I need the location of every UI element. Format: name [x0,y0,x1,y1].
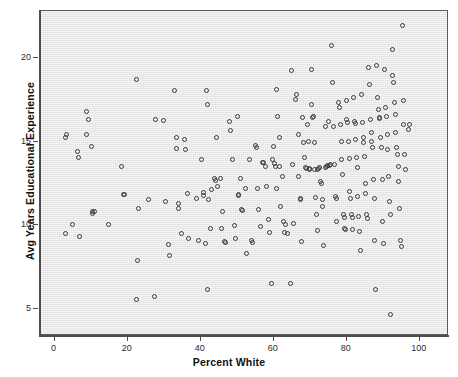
data-point [250,240,255,245]
data-point [357,229,362,234]
data-point [368,117,373,122]
data-point [354,155,359,160]
data-point [274,87,279,92]
data-point [289,68,294,73]
data-point [185,191,190,196]
data-point [70,222,75,227]
data-point [374,63,379,68]
data-point [350,215,355,220]
data-point [206,197,211,202]
data-point [346,139,351,144]
data-point [387,199,392,204]
data-point [299,239,304,244]
data-point [375,95,380,100]
data-point [344,98,349,103]
data-point [254,145,259,150]
data-point [355,194,360,199]
data-point [277,135,282,140]
data-point [317,165,322,170]
data-point [205,287,210,292]
data-point [396,179,401,184]
data-point [320,197,325,202]
data-point [315,228,320,233]
x-axis-tick [54,336,55,341]
data-point [194,196,199,201]
data-point [397,206,402,211]
data-point [321,243,326,248]
data-point [406,127,411,132]
data-point [334,196,339,201]
data-point [240,208,245,213]
y-axis-line [39,10,41,336]
data-point [339,157,344,162]
data-point [174,146,179,151]
data-point [296,174,301,179]
data-point [280,174,285,179]
data-point [172,88,177,93]
data-point [378,135,383,140]
data-point [388,212,393,217]
data-point [233,236,238,241]
x-axis-tick [127,336,128,341]
data-point [135,258,140,263]
data-point [134,77,139,82]
data-point [314,212,319,217]
data-point [244,251,249,256]
data-point [347,156,352,161]
data-point [371,177,376,182]
data-point [243,186,248,191]
data-point [153,117,158,122]
data-point [302,155,307,160]
data-point [236,193,241,198]
data-point [309,67,314,72]
y-axis-tick-label: 5 [17,303,31,313]
data-point [311,114,316,119]
data-point [166,242,171,247]
data-point [146,197,151,202]
data-point [379,145,384,150]
data-point [402,152,407,157]
data-point [214,135,219,140]
data-point [186,236,191,241]
data-point [203,241,208,246]
data-point [392,100,397,105]
data-point [106,222,111,227]
data-point [167,253,172,258]
data-point [122,192,127,197]
data-point [196,238,201,243]
data-point [152,294,157,299]
x-axis-line [39,335,449,337]
data-point [274,186,279,191]
data-point [345,120,350,125]
data-point [220,209,225,214]
data-point [64,132,69,137]
data-point [399,244,404,249]
data-point [376,107,381,112]
data-point [92,209,97,214]
data-point [267,230,272,235]
data-point [176,201,181,206]
data-point [386,174,391,179]
data-point [366,65,371,70]
data-point [264,184,269,189]
data-point [372,196,377,201]
data-point [329,43,334,48]
data-point [353,121,358,126]
data-point [326,119,331,124]
data-point [296,132,301,137]
data-point [278,204,283,209]
data-point [204,88,209,93]
x-axis-tick-label: 100 [411,343,426,353]
data-point [394,145,399,150]
data-point [358,248,363,253]
x-axis-tick [346,336,347,341]
data-point [277,164,282,169]
data-point [77,234,82,239]
data-point [391,80,396,85]
data-point [373,287,378,292]
data-point [369,139,374,144]
data-point [360,120,365,125]
data-point [348,196,353,201]
data-point [385,132,390,137]
data-point [182,137,187,142]
